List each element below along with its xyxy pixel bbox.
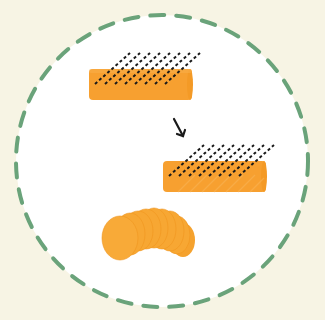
dashed-circle-frame [16, 15, 308, 307]
whole-cylinder [89, 69, 193, 100]
slicing-diagram [0, 0, 325, 320]
cut-cylinder [163, 161, 267, 192]
